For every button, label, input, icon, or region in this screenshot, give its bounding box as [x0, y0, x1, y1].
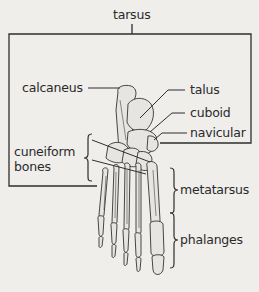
label-cuboid: cuboid: [190, 106, 231, 120]
phalanges-bracket: [170, 213, 178, 268]
label-navicular: navicular: [190, 126, 246, 140]
label-cuneiform-bones: bones: [14, 160, 51, 174]
foot-bones: [98, 85, 164, 274]
metatarsus-bracket: [170, 168, 178, 213]
label-tarsus: tarsus: [113, 8, 150, 22]
cuneiform-bracket: [84, 134, 92, 181]
label-cuneiform: cuneiform: [14, 145, 75, 159]
label-metatarsus: metatarsus: [180, 183, 249, 197]
label-talus: talus: [190, 83, 219, 97]
label-phalanges: phalanges: [180, 233, 243, 247]
label-calcaneus: calcaneus: [22, 81, 83, 95]
